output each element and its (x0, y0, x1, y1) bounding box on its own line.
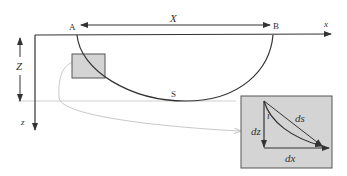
x-axis-label: x (323, 19, 328, 29)
inset-detail: i ds dz dx (241, 96, 332, 168)
ds-label: ds (295, 112, 305, 124)
point-a-label: A (69, 22, 76, 32)
z-axis-label: z (20, 117, 25, 127)
x-axis (35, 34, 331, 35)
depth-z-label: Z (16, 60, 23, 72)
diagram-svg: A B X x z Z S i ds dz dx (0, 0, 347, 176)
span-x-label: X (169, 12, 178, 24)
point-b-label: B (273, 21, 279, 31)
magnified-region-box (72, 54, 105, 78)
ray-path-diagram: A B X x z Z S i ds dz dx (0, 0, 347, 176)
dz-label: dz (251, 125, 262, 137)
point-s-label: S (171, 89, 176, 99)
dx-label: dx (285, 152, 296, 164)
angle-i-label: i (267, 110, 270, 121)
